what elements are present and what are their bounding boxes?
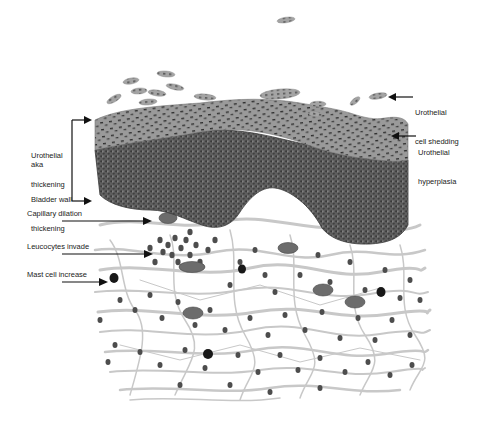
label-line: thickening: [31, 224, 72, 234]
label-line: Urothelial: [415, 108, 459, 118]
label-mast-cell-increase: Mast cell increase: [27, 270, 87, 280]
label-line: hyperplasia: [418, 177, 456, 187]
stroma-fibers: [95, 219, 430, 401]
label-leucocytes-invade: Leucocytes invade: [27, 242, 89, 252]
diagram-canvas: Urothelial thickening aka Bladder wall t…: [0, 0, 482, 427]
label-capillary-dilation: Capillary dilation: [27, 209, 82, 219]
label-line: Urothelial: [418, 148, 456, 158]
label-urothelial-hyperplasia: Urothelial hyperplasia: [418, 129, 456, 205]
label-line: Bladder wall: [31, 195, 72, 205]
label-aka: aka: [31, 160, 43, 170]
